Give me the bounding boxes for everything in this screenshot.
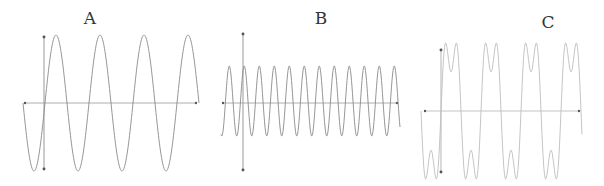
panel-c-label: C bbox=[541, 14, 554, 31]
panel-a bbox=[23, 35, 199, 171]
panel-c bbox=[421, 43, 582, 179]
panel-b-sine-wave bbox=[221, 66, 400, 136]
panel-a-label: A bbox=[84, 10, 96, 27]
panel-b bbox=[221, 34, 400, 170]
panel-b-label: B bbox=[315, 10, 328, 27]
